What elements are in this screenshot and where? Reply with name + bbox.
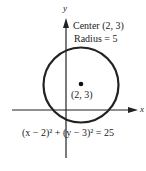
y-axis-arrow-icon <box>63 18 69 28</box>
y-axis-label: y <box>63 3 67 14</box>
radius-annotation: Radius = 5 <box>74 33 117 44</box>
center-point <box>79 82 84 87</box>
x-axis-label: x <box>140 104 144 115</box>
x-axis-arrow-icon <box>128 107 138 113</box>
point-label: (2, 3) <box>71 89 93 100</box>
equation-label: (x − 2)² + (y − 3)² = 25 <box>22 127 114 138</box>
center-annotation: Center (2, 3) <box>73 20 124 31</box>
